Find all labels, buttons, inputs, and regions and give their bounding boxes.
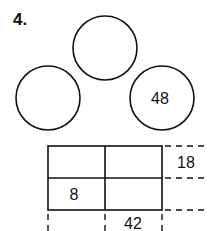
column-label-2: 42 bbox=[124, 215, 142, 231]
row-label-1: 18 bbox=[177, 154, 195, 171]
circle-left bbox=[16, 66, 80, 130]
cell-r2-c1: 8 bbox=[70, 186, 79, 203]
circle-right-value: 48 bbox=[151, 90, 169, 107]
puzzle-diagram: 48 8 18 42 bbox=[0, 0, 209, 231]
circle-right: 48 bbox=[130, 66, 194, 130]
circle-top bbox=[73, 16, 137, 80]
grid bbox=[48, 146, 162, 210]
